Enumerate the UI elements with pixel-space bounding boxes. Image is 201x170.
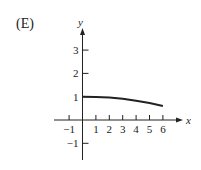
- y-axis-arrow-icon: [80, 28, 85, 35]
- y-tick-label: −1: [67, 137, 79, 149]
- x-tick-label: −1: [63, 123, 75, 135]
- y-axis-label: y: [77, 16, 83, 28]
- x-tick-label: 4: [133, 123, 139, 135]
- x-axis-label: x: [185, 114, 191, 126]
- x-tick-label: 6: [160, 123, 166, 135]
- x-tick-label: 2: [107, 123, 113, 135]
- chart: xy−1123456−1123: [0, 0, 201, 170]
- data-curve: [83, 97, 163, 106]
- x-tick-label: 3: [120, 123, 126, 135]
- y-tick-label: 3: [73, 44, 79, 56]
- x-tick-label: 5: [147, 123, 153, 135]
- x-axis-arrow-icon: [176, 118, 183, 123]
- x-tick-label: 1: [93, 123, 99, 135]
- y-tick-label: 2: [73, 67, 79, 79]
- y-tick-label: 1: [73, 91, 79, 103]
